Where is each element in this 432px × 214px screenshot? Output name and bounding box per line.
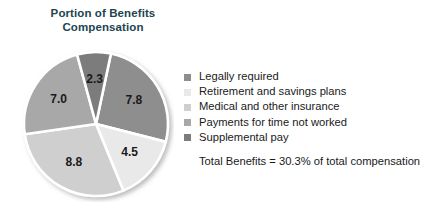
legend-item-retirement-and-savings-plans[interactable]: Retirement and savings plans: [184, 84, 428, 99]
pie-slice-value-label: 7.0: [50, 92, 67, 106]
legend-item-label: Payments for time not worked: [199, 115, 347, 130]
pie-slice-value-label: 2.3: [86, 72, 103, 86]
legend-item-payments-for-time-not-worked[interactable]: Payments for time not worked: [184, 115, 428, 130]
legend-swatch-icon: [184, 134, 191, 141]
legend-item-legally-required[interactable]: Legally required: [184, 69, 428, 84]
legend: Legally required Retirement and savings …: [184, 69, 428, 145]
legend-item-label: Retirement and savings plans: [199, 84, 346, 99]
legend-swatch-icon: [184, 74, 191, 81]
chart-title: Portion of Benefits Compensation: [18, 6, 188, 34]
legend-swatch-icon: [184, 89, 191, 96]
pie-slice-value-label: 4.5: [121, 145, 138, 159]
total-benefits-note: Total Benefits = 30.3% of total compensa…: [199, 155, 420, 167]
legend-swatch-icon: [184, 119, 191, 126]
pie-slice-value-label: 7.8: [126, 93, 143, 107]
pie-chart-figure: Portion of Benefits Compensation 7.84.58…: [0, 0, 432, 214]
legend-item-label: Legally required: [199, 69, 279, 84]
pie-svg: 7.84.58.87.02.3: [22, 50, 174, 202]
chart-title-line-1: Portion of Benefits: [18, 6, 188, 20]
legend-item-label: Medical and other insurance: [199, 99, 340, 114]
legend-item-label: Supplemental pay: [199, 130, 289, 145]
pie-plot-area: 7.84.58.87.02.3: [22, 50, 174, 202]
chart-title-line-2: Compensation: [18, 20, 188, 34]
legend-swatch-icon: [184, 104, 191, 111]
pie-slice-value-label: 8.8: [65, 155, 82, 169]
legend-item-medical-and-other-insurance[interactable]: Medical and other insurance: [184, 99, 428, 114]
legend-item-supplemental-pay[interactable]: Supplemental pay: [184, 130, 428, 145]
